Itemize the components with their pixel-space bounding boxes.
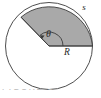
figure-container: s θ R FIGURE 1 bbox=[0, 0, 101, 98]
circular-sector-diagram: s θ R bbox=[0, 0, 101, 98]
radius-label: R bbox=[63, 47, 70, 57]
arc-length-label: s bbox=[82, 2, 86, 12]
figure-caption: FIGURE 1 bbox=[2, 89, 54, 92]
angle-label: θ bbox=[46, 28, 51, 39]
caption-strip: FIGURE 1 bbox=[0, 89, 101, 98]
